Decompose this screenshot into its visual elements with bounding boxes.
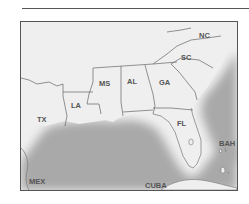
top-rule <box>22 8 249 9</box>
label-al: AL <box>127 77 137 86</box>
label-fl: FL <box>177 119 187 128</box>
label-ms: MS <box>99 79 110 88</box>
label-mex: MEX <box>29 177 45 186</box>
label-sc: SC <box>181 53 192 62</box>
label-ga: GA <box>159 78 171 87</box>
label-tx: TX <box>37 115 47 124</box>
label-bah: BAH <box>219 139 235 148</box>
label-la: LA <box>71 101 82 110</box>
label-cuba: CUBA <box>145 181 167 190</box>
label-nc: NC <box>199 31 210 40</box>
southeast-us-map: NC SC GA AL MS LA TX FL BAH MEX CUBA <box>21 22 237 190</box>
map-frame: NC SC GA AL MS LA TX FL BAH MEX CUBA <box>20 21 238 191</box>
